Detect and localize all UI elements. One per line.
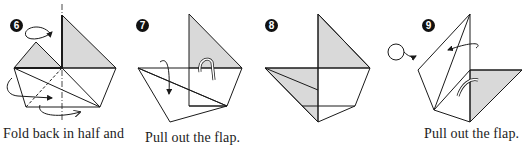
step-number-8: 8 bbox=[265, 19, 278, 32]
step-8-diagram bbox=[265, 14, 370, 122]
step-number-6: 6 bbox=[10, 19, 23, 32]
step-6-caption: Fold back in half and bbox=[3, 126, 124, 142]
step-7-caption: Pull out the flap. bbox=[145, 130, 240, 146]
step-number-7: 7 bbox=[136, 19, 149, 32]
step-number-9: 9 bbox=[422, 19, 435, 32]
turn-over-icon bbox=[388, 44, 416, 60]
step-6-diagram bbox=[7, 4, 116, 122]
origami-diagram bbox=[0, 0, 526, 146]
step-9-caption: Pull out the flap. bbox=[424, 126, 519, 142]
step-7-diagram bbox=[138, 14, 242, 122]
step-9-diagram bbox=[418, 14, 522, 122]
